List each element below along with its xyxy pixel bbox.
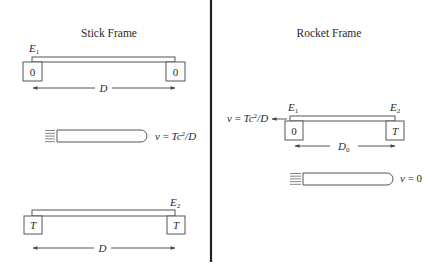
length-label: D0	[337, 140, 350, 154]
stick-top: 0 0 E1 D	[23, 42, 185, 94]
exhaust-icon	[290, 174, 301, 185]
stick-moving: 0 T E1 E2 v = Tc2/D D0	[227, 101, 404, 154]
event-label-e1: E1	[287, 101, 299, 115]
rocket-velocity-label: v = Tc2/D	[155, 130, 196, 142]
rocket-at-rest: v = 0	[290, 172, 423, 185]
stick-bottom: T T E2 D	[24, 196, 185, 254]
stick-bar	[32, 57, 175, 62]
rocket-frame-title: Rocket Frame	[297, 27, 362, 39]
right-clock-reading: T	[173, 219, 180, 231]
stick-bar	[32, 210, 175, 216]
rocket-frame-panel: Rocket Frame 0 T E1 E2 v = Tc2/D D0	[227, 27, 423, 185]
left-clock-reading: 0	[291, 125, 297, 137]
rocket-body	[57, 130, 147, 142]
left-clock-reading: 0	[30, 66, 36, 78]
event-label-e2: E2	[169, 196, 181, 210]
right-clock-reading: 0	[173, 66, 179, 78]
event-label-e2: E2	[389, 101, 401, 115]
right-clock-reading: T	[392, 125, 399, 137]
spacetime-diagram: Stick Frame 0 0 E1 D v = Tc2/D	[0, 0, 441, 270]
stick-velocity-label: v = Tc2/D	[227, 112, 268, 124]
stick-bar	[290, 116, 395, 121]
rocket-velocity-label: v = 0	[400, 172, 423, 184]
rocket-moving: v = Tc2/D	[45, 130, 196, 142]
left-clock-reading: T	[30, 219, 37, 231]
stick-frame-title: Stick Frame	[81, 27, 137, 39]
event-label-e1: E1	[28, 42, 40, 56]
stick-frame-panel: Stick Frame 0 0 E1 D v = Tc2/D	[23, 27, 196, 254]
rocket-body	[303, 173, 393, 185]
length-label: D	[99, 82, 108, 94]
length-label: D	[98, 242, 107, 254]
exhaust-icon	[45, 131, 55, 142]
